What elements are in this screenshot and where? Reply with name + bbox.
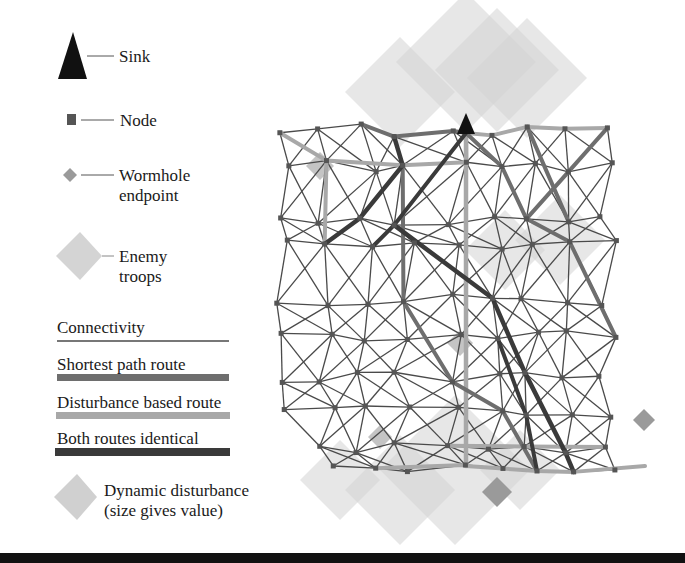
node-icon (614, 238, 619, 243)
node-icon (500, 466, 505, 471)
node-icon (354, 450, 359, 455)
node-icon (612, 467, 617, 472)
node-icon (566, 169, 571, 174)
node-icon (524, 413, 529, 418)
node-icon (497, 371, 502, 376)
node-icon (567, 239, 572, 244)
connectivity-edge (572, 415, 610, 417)
node-icon (412, 240, 417, 245)
connectivity-edge (521, 299, 568, 303)
node-icon (605, 125, 610, 130)
connectivity-edge (357, 339, 407, 372)
dynamic-disturbance-legend-icon (54, 474, 97, 520)
node-icon (274, 301, 279, 306)
node-icon (490, 296, 495, 301)
disturbance-route (325, 161, 327, 244)
connectivity-edge (277, 303, 281, 333)
node-icon (519, 296, 524, 301)
connectivity-edge (335, 406, 365, 408)
connectivity-edge (360, 218, 394, 225)
node-icon (277, 130, 282, 135)
connectivity-edge (326, 124, 361, 161)
connectivity-edge (572, 376, 599, 415)
node-icon (597, 214, 602, 219)
connectivity-edge (492, 135, 535, 163)
node-icon (566, 219, 571, 224)
node-icon (599, 303, 604, 308)
node-icon (450, 292, 455, 297)
node-icon (486, 447, 491, 452)
connectivity-edge (325, 244, 328, 306)
legend-both-identical-label: Both routes identical (57, 429, 199, 448)
node-icon (392, 134, 397, 139)
node-icon (405, 469, 410, 474)
connectivity-edge (332, 304, 368, 334)
node-icon (608, 415, 613, 420)
connectivity-edge (566, 303, 567, 331)
connectivity-edge (565, 129, 568, 172)
connectivity-edge (562, 376, 599, 378)
node-icon (317, 444, 322, 449)
node-icon (456, 405, 461, 410)
connectivity-edge (373, 243, 415, 247)
connectivity-edge (332, 334, 364, 341)
legend-connectivity: Connectivity (57, 318, 229, 341)
legend: Sink Node Wormhole endpoint Enemy troops… (54, 32, 249, 520)
node-icon (500, 408, 505, 413)
connectivity-edge (364, 339, 407, 340)
legend-dynamic-label-2: (size gives value) (104, 501, 223, 520)
node-icon (533, 161, 538, 166)
connectivity-edge (289, 166, 318, 223)
node-icon (464, 160, 469, 165)
node-icon (392, 440, 397, 445)
legend-both-identical: Both routes identical (55, 429, 230, 456)
node-icon (324, 158, 329, 163)
connectivity-edge (410, 382, 453, 407)
node-icon (610, 160, 615, 165)
connectivity-edge (572, 415, 605, 447)
node-icon (524, 216, 529, 221)
node-icon (522, 370, 527, 375)
node-icon (489, 133, 494, 138)
connectivity-edge (287, 240, 328, 306)
sink-legend-icon (58, 32, 87, 79)
legend-disturbance-route-label: Disturbance based route (57, 393, 221, 412)
enemy-troops-legend-icon (56, 232, 102, 280)
node-icon (457, 242, 462, 247)
node-icon (407, 405, 412, 410)
node-icon (333, 405, 338, 410)
wormhole-legend-icon (63, 168, 77, 182)
legend-sink-label: Sink (119, 47, 151, 66)
node-icon (278, 215, 283, 220)
node-icon (492, 214, 497, 219)
node-icon (285, 238, 290, 243)
connectivity-edge (607, 128, 612, 163)
connectivity-edge (566, 305, 601, 330)
node-icon (282, 407, 287, 412)
node-icon (317, 379, 322, 384)
node-icon (286, 163, 291, 168)
connectivity-edge (605, 417, 610, 447)
connectivity-edge (368, 247, 373, 305)
connectivity-edge (281, 333, 282, 382)
legend-shortest-path: Shortest path route (57, 355, 229, 381)
connectivity-edge (280, 129, 318, 133)
connectivity-edge (403, 294, 452, 301)
node-icon (392, 370, 397, 375)
node-icon (570, 412, 575, 417)
both-identical-swatch (55, 448, 230, 456)
wormhole-endpoint-icon (633, 409, 655, 431)
node-icon (355, 370, 360, 375)
connectivity-edge (562, 337, 616, 377)
connectivity-edge (599, 376, 611, 417)
legend-disturbance-route: Disturbance based route (56, 393, 230, 419)
connectivity-edge (320, 408, 335, 447)
node-icon (280, 380, 285, 385)
connectivity-edge (373, 247, 404, 302)
connectivity-edge (500, 374, 503, 411)
node-icon (596, 374, 601, 379)
disturbance-route (466, 127, 607, 135)
node-icon (562, 126, 567, 131)
connectivity-edge (282, 334, 332, 382)
node-legend-icon (67, 114, 76, 125)
